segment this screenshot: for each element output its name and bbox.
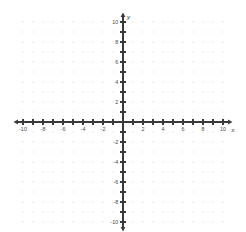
grid-dot xyxy=(223,152,224,153)
grid-dot xyxy=(223,182,224,183)
grid-dot xyxy=(83,92,84,93)
grid-dot xyxy=(33,162,34,163)
grid-dot xyxy=(63,92,64,93)
grid-dot xyxy=(73,62,74,63)
grid-dot xyxy=(153,162,154,163)
grid-dot xyxy=(183,142,184,143)
grid-dot xyxy=(173,152,174,153)
grid-dot xyxy=(213,112,214,113)
grid-dot xyxy=(53,132,54,133)
grid-dot xyxy=(193,92,194,93)
grid-dot xyxy=(53,72,54,73)
grid-dot xyxy=(23,32,24,33)
grid-dot xyxy=(33,82,34,83)
grid-dot xyxy=(203,162,204,163)
y-axis-arrow-down xyxy=(121,227,126,232)
x-axis-tick-label: -4 xyxy=(81,126,86,132)
grid-dot xyxy=(33,112,34,113)
grid-dot xyxy=(93,22,94,23)
grid-dot xyxy=(63,142,64,143)
grid-dot xyxy=(163,182,164,183)
grid-dot xyxy=(113,82,114,83)
grid-dot xyxy=(223,172,224,173)
grid-dot xyxy=(193,172,194,173)
grid-dot xyxy=(133,22,134,23)
grid-dot xyxy=(93,32,94,33)
grid-dot xyxy=(73,52,74,53)
grid-dot xyxy=(173,212,174,213)
y-axis-tick-label: 2 xyxy=(115,99,118,105)
grid-dot xyxy=(173,182,174,183)
grid-dot xyxy=(153,152,154,153)
grid-dot xyxy=(143,92,144,93)
grid-dot xyxy=(63,62,64,63)
grid-dot xyxy=(33,132,34,133)
grid-dot xyxy=(163,212,164,213)
grid-dot xyxy=(183,212,184,213)
grid-dot xyxy=(173,202,174,203)
grid-dot xyxy=(43,102,44,103)
grid-dot xyxy=(23,162,24,163)
grid-dot xyxy=(153,62,154,63)
grid-dot xyxy=(153,42,154,43)
grid-dot xyxy=(203,192,204,193)
grid-dot xyxy=(33,92,34,93)
grid-dot xyxy=(193,162,194,163)
grid-dot xyxy=(93,92,94,93)
grid-dot xyxy=(203,22,204,23)
grid-dot xyxy=(73,22,74,23)
grid-dot xyxy=(223,192,224,193)
grid-dot xyxy=(23,82,24,83)
y-axis-tick-label: -6 xyxy=(113,179,118,185)
grid-dot xyxy=(143,112,144,113)
grid-dot xyxy=(153,192,154,193)
grid-dot xyxy=(223,112,224,113)
grid-dot xyxy=(193,152,194,153)
grid-dot xyxy=(33,72,34,73)
grid-dot xyxy=(213,152,214,153)
grid-dot xyxy=(153,22,154,23)
grid-dot xyxy=(33,182,34,183)
grid-dot xyxy=(63,52,64,53)
grid-dot xyxy=(213,212,214,213)
grid-dot xyxy=(43,72,44,73)
grid-dot xyxy=(103,212,104,213)
grid-dot xyxy=(173,132,174,133)
grid-dot xyxy=(203,152,204,153)
grid-dot xyxy=(43,32,44,33)
grid-dot xyxy=(143,202,144,203)
grid-dot xyxy=(183,162,184,163)
grid-dot xyxy=(103,222,104,223)
grid-dot xyxy=(193,182,194,183)
grid-dot xyxy=(33,152,34,153)
grid-dot xyxy=(83,182,84,183)
grid-dot xyxy=(183,72,184,73)
grid-dot xyxy=(193,42,194,43)
grid-dot xyxy=(33,202,34,203)
grid-dot xyxy=(223,42,224,43)
grid-dot xyxy=(203,142,204,143)
grid-dot xyxy=(153,102,154,103)
grid-dot xyxy=(103,92,104,93)
grid-dot xyxy=(103,62,104,63)
grid-dot xyxy=(203,222,204,223)
grid-dot xyxy=(173,22,174,23)
grid-dot xyxy=(103,162,104,163)
grid-dot xyxy=(93,52,94,53)
grid-dot xyxy=(193,132,194,133)
grid-dot xyxy=(153,72,154,73)
grid-dot xyxy=(53,162,54,163)
grid-dot xyxy=(213,62,214,63)
x-axis-tick-label: 2 xyxy=(141,126,144,132)
grid-dot xyxy=(93,72,94,73)
grid-dot xyxy=(63,192,64,193)
grid-dot xyxy=(133,162,134,163)
grid-dot xyxy=(63,72,64,73)
grid-dot xyxy=(183,42,184,43)
grid-dot xyxy=(73,222,74,223)
grid-dot xyxy=(183,112,184,113)
grid-dot xyxy=(43,182,44,183)
grid-dot xyxy=(53,102,54,103)
grid-dot xyxy=(83,152,84,153)
grid-dot xyxy=(43,62,44,63)
